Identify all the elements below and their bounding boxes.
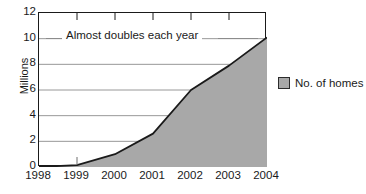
x-axis-tick-labels: 1998199920002001200220032004 xyxy=(0,168,366,188)
y-tick-label-4: 4 xyxy=(10,109,36,120)
area-series-no-of-homes xyxy=(39,37,267,167)
y-axis-tick-labels: 024681012 xyxy=(8,0,36,194)
x-tick-label-1998: 1998 xyxy=(21,168,55,182)
annotation-leader-left xyxy=(46,38,62,39)
x-tick-label-2003: 2003 xyxy=(211,168,245,182)
annotation-leader-right xyxy=(218,38,258,39)
chart-legend: No. of homes xyxy=(278,77,363,89)
y-tick-label-10: 10 xyxy=(10,32,36,43)
x-tick-label-1999: 1999 xyxy=(59,168,93,182)
x-tick-label-2002: 2002 xyxy=(173,168,207,182)
legend-swatch-no-of-homes xyxy=(278,77,290,89)
legend-label-no-of-homes: No. of homes xyxy=(295,77,363,89)
area-chart: Millions 024681012 Almost doubles each y… xyxy=(0,0,366,194)
y-tick-label-8: 8 xyxy=(10,57,36,68)
x-tick-label-2004: 2004 xyxy=(249,168,283,182)
y-tick-label-12: 12 xyxy=(10,6,36,17)
y-tick-label-2: 2 xyxy=(10,134,36,145)
x-tick-label-2001: 2001 xyxy=(135,168,169,182)
annotation-almost-doubles: Almost doubles each year xyxy=(62,29,202,42)
y-tick-label-6: 6 xyxy=(10,83,36,94)
x-tick-label-2000: 2000 xyxy=(97,168,131,182)
